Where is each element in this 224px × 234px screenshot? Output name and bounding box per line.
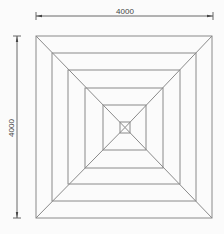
width-dimension-label: 4000 [116, 7, 134, 16]
diagonal-4 [125, 128, 212, 219]
height-dimension-label: 4000 [7, 119, 16, 137]
diagonal-1 [36, 36, 125, 128]
drawing-canvas: 4000 4000 [0, 0, 224, 234]
width-dimension: 4000 [36, 7, 213, 20]
diagonal-lines [36, 36, 212, 218]
diagonal-2 [125, 36, 212, 128]
diagonal-3 [36, 128, 125, 219]
height-dimension: 4000 [7, 36, 21, 218]
